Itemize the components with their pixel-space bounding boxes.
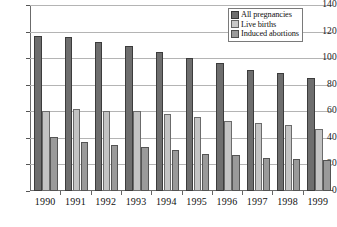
x-tick-mark bbox=[272, 191, 273, 195]
bar[interactable] bbox=[73, 109, 80, 191]
bar[interactable] bbox=[133, 111, 140, 191]
bar[interactable] bbox=[232, 155, 239, 191]
legend-item-induced-abortions[interactable]: Induced abortions bbox=[231, 29, 299, 39]
legend-swatch-icon bbox=[231, 20, 239, 28]
x-tick-mark bbox=[212, 191, 213, 195]
bar[interactable] bbox=[263, 158, 270, 191]
bar[interactable] bbox=[293, 159, 300, 191]
bar[interactable] bbox=[125, 46, 132, 191]
x-tick-label: 1999 bbox=[303, 196, 333, 207]
bar[interactable] bbox=[164, 114, 171, 191]
bar[interactable] bbox=[111, 145, 118, 192]
bar-group bbox=[183, 5, 213, 191]
bar[interactable] bbox=[194, 117, 201, 191]
x-tick-label: 1997 bbox=[242, 196, 272, 207]
bar[interactable] bbox=[34, 36, 41, 191]
legend-item-live-births[interactable]: Live births bbox=[231, 20, 299, 30]
legend-swatch-icon bbox=[231, 11, 239, 19]
bar-group bbox=[61, 5, 91, 191]
y-tick-mark bbox=[26, 58, 30, 59]
bar-chart: 020406080100120140 199019911992199319941… bbox=[0, 0, 337, 227]
bar[interactable] bbox=[141, 147, 148, 191]
bar[interactable] bbox=[156, 52, 163, 192]
x-tick-label: 1991 bbox=[60, 196, 90, 207]
x-tick-mark bbox=[91, 191, 92, 195]
legend-label: All pregnancies bbox=[241, 10, 292, 20]
x-axis: 1990199119921993199419951996199719981999 bbox=[30, 196, 333, 216]
y-tick-mark bbox=[26, 85, 30, 86]
bar-group bbox=[304, 5, 334, 191]
x-tick-label: 1996 bbox=[212, 196, 242, 207]
bar[interactable] bbox=[323, 160, 330, 191]
legend-label: Induced abortions bbox=[241, 29, 299, 39]
bar[interactable] bbox=[202, 154, 209, 191]
x-tick-mark bbox=[151, 191, 152, 195]
legend-swatch-icon bbox=[231, 30, 239, 38]
y-tick-mark bbox=[26, 164, 30, 165]
bar[interactable] bbox=[103, 111, 110, 191]
bar[interactable] bbox=[285, 125, 292, 191]
bar[interactable] bbox=[95, 42, 102, 191]
bar[interactable] bbox=[277, 73, 284, 191]
x-tick-label: 1992 bbox=[91, 196, 121, 207]
x-tick-label: 1993 bbox=[121, 196, 151, 207]
bar[interactable] bbox=[186, 58, 193, 191]
x-tick-label: 1994 bbox=[151, 196, 181, 207]
legend-item-all-pregnancies[interactable]: All pregnancies bbox=[231, 10, 299, 20]
bar[interactable] bbox=[216, 63, 223, 191]
bar[interactable] bbox=[172, 150, 179, 191]
y-tick-mark bbox=[26, 111, 30, 112]
y-tick-mark bbox=[26, 138, 30, 139]
y-tick-mark bbox=[26, 32, 30, 33]
x-tick-mark bbox=[121, 191, 122, 195]
bar[interactable] bbox=[307, 78, 314, 191]
bar-group bbox=[31, 5, 61, 191]
bar[interactable] bbox=[247, 70, 254, 191]
bar[interactable] bbox=[255, 123, 262, 191]
x-tick-label: 1995 bbox=[182, 196, 212, 207]
chart-legend: All pregnancies Live births Induced abor… bbox=[228, 8, 303, 42]
bar[interactable] bbox=[315, 129, 322, 191]
x-tick-mark bbox=[182, 191, 183, 195]
y-tick-mark bbox=[26, 5, 30, 6]
bar[interactable] bbox=[224, 121, 231, 191]
legend-label: Live births bbox=[241, 20, 276, 30]
x-tick-mark bbox=[242, 191, 243, 195]
bar[interactable] bbox=[50, 137, 57, 191]
bar[interactable] bbox=[81, 142, 88, 191]
y-tick-mark bbox=[26, 191, 30, 192]
bar-group bbox=[92, 5, 122, 191]
bar[interactable] bbox=[42, 111, 49, 191]
bar-group bbox=[152, 5, 182, 191]
bar-group bbox=[122, 5, 152, 191]
bar[interactable] bbox=[65, 37, 72, 191]
x-tick-label: 1998 bbox=[272, 196, 302, 207]
x-tick-mark bbox=[60, 191, 61, 195]
x-tick-mark bbox=[303, 191, 304, 195]
x-tick-label: 1990 bbox=[30, 196, 60, 207]
